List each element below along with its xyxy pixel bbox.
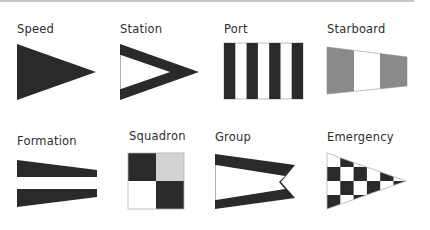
station-flag-icon bbox=[120, 44, 199, 100]
squadron-flag-icon bbox=[128, 153, 184, 209]
flags-diagram bbox=[0, 0, 430, 230]
starboard-flag-icon bbox=[327, 47, 407, 94]
group-flag-icon bbox=[215, 154, 295, 209]
port-flag-icon bbox=[224, 43, 303, 99]
emergency-flag-icon bbox=[327, 153, 407, 209]
speed-flag-icon bbox=[17, 44, 96, 100]
formation-flag-icon bbox=[17, 160, 97, 207]
